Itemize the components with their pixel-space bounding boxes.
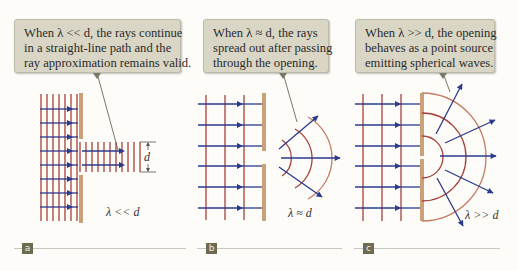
- incoming-wavefronts: [206, 95, 244, 220]
- panel-b-figure: [198, 93, 340, 221]
- panel-tag-c: c: [363, 243, 374, 254]
- condition-label-b: λ ≈ d: [288, 206, 312, 221]
- callout-pointers: [97, 73, 450, 150]
- incoming-wavefronts: [41, 94, 77, 221]
- panel-tag-a: a: [22, 243, 33, 254]
- diffraction-diagram: [0, 0, 518, 271]
- condition-label-c: λ >> d: [465, 208, 498, 223]
- panel-a-rule: [14, 248, 186, 249]
- incoming-rays: [198, 104, 263, 208]
- panel-b-rule: [197, 248, 342, 249]
- panel-c-figure: [355, 84, 496, 226]
- incoming-rays: [355, 104, 420, 208]
- panel-a-figure: [40, 93, 156, 223]
- incoming-wavefronts: [363, 94, 401, 221]
- dimension-label-d: d: [144, 150, 150, 165]
- transmitted-wavefronts: [80, 142, 140, 172]
- condition-label-a: λ << d: [106, 205, 139, 220]
- panel-c-rule: [354, 248, 500, 249]
- spherical-wavefronts: [422, 93, 486, 221]
- panel-tag-b: b: [206, 243, 217, 254]
- barrier: [262, 93, 266, 221]
- diffracted-rays: [279, 116, 340, 197]
- barrier: [420, 93, 424, 221]
